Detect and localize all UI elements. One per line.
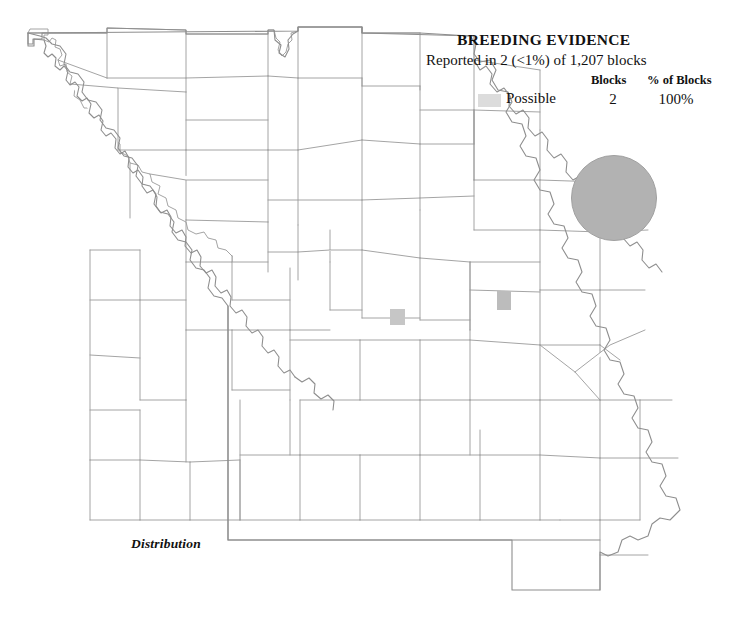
legend-table: Blocks % of Blocks Possible 2 100% (424, 73, 740, 117)
page-root: Distribution BREEDING EVIDENCE Reported … (0, 0, 745, 626)
legend-column-header-percent: % of Blocks (647, 73, 712, 88)
legend-row-percent-possible: 100% (643, 91, 709, 108)
legend-column-header-blocks: Blocks (591, 73, 626, 88)
legend-title: BREEDING EVIDENCE (457, 30, 740, 50)
distribution-caption: Distribution (131, 536, 201, 552)
legend-row-label-possible: Possible (506, 90, 556, 107)
abundance-circle-symbol (571, 155, 657, 241)
possible-block-central (390, 309, 405, 325)
legend-subtitle: Reported in 2 (<1%) of 1,207 blocks (426, 50, 740, 71)
legend-row-blocks-possible: 2 (591, 91, 635, 108)
possible-block-east (497, 291, 511, 310)
legend-swatch-possible (478, 94, 501, 107)
breeding-evidence-legend: BREEDING EVIDENCE Reported in 2 (<1%) of… (424, 30, 740, 117)
